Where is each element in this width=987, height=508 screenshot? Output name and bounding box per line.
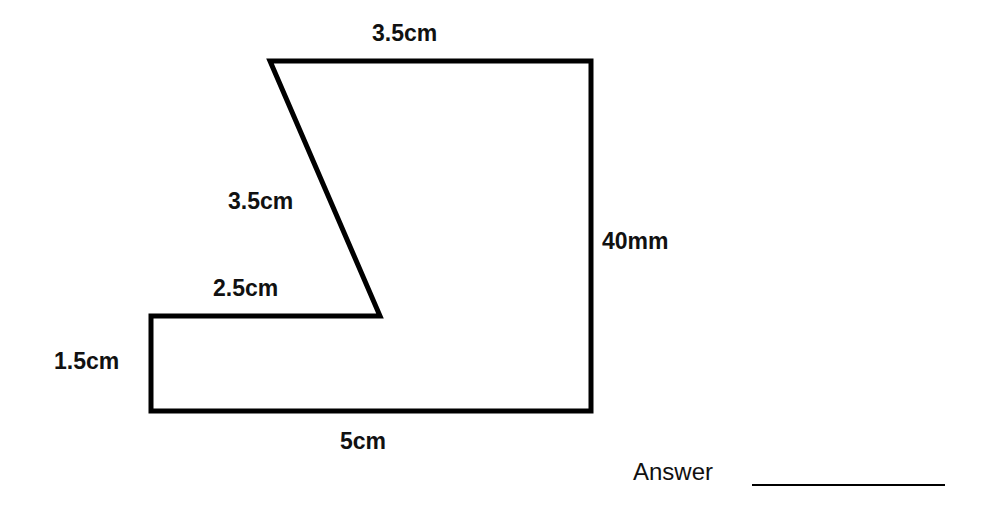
label-bottom-side: 5cm xyxy=(340,430,386,453)
label-left-side: 1.5cm xyxy=(54,350,119,373)
shape-outline xyxy=(0,0,987,508)
label-inner-horizontal: 2.5cm xyxy=(213,277,278,300)
label-slant-side: 3.5cm xyxy=(228,190,293,213)
answer-label: Answer xyxy=(633,460,713,484)
label-right-side: 40mm xyxy=(602,230,668,253)
answer-field[interactable] xyxy=(750,470,945,488)
label-top-side: 3.5cm xyxy=(372,22,437,45)
